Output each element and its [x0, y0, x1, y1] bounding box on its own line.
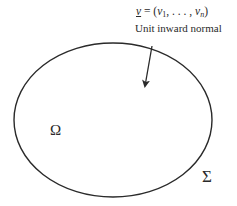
region-label-omega: Ω [50, 123, 61, 138]
normal-arrow [145, 46, 152, 86]
formula-separator: , . . . , [166, 5, 195, 17]
boundary-ellipse [14, 43, 212, 197]
formula-equals: = ( [141, 5, 157, 17]
boundary-label-sigma: Σ [202, 168, 212, 185]
formula-close: ) [204, 5, 208, 17]
normal-vector-formula: ν = (ν1, . . . , νn) [136, 6, 208, 19]
normal-caption: Unit inward normal [135, 23, 222, 34]
